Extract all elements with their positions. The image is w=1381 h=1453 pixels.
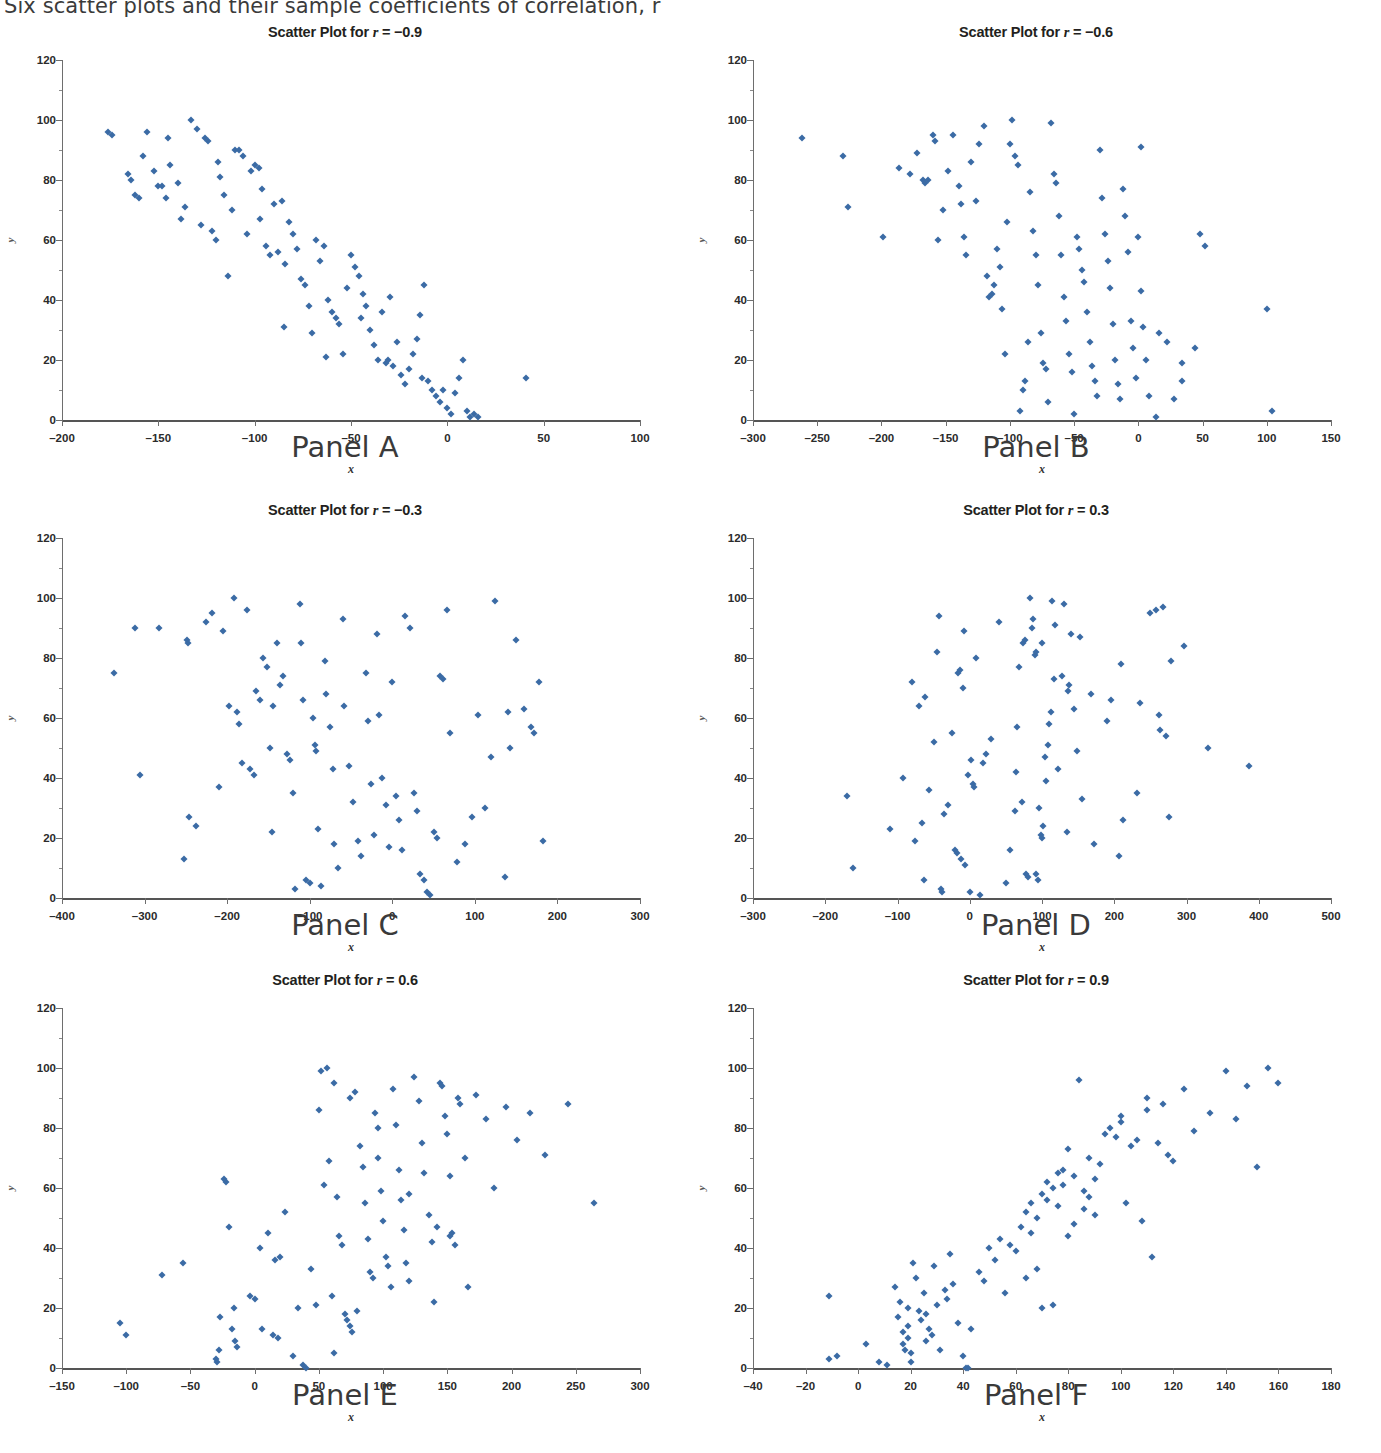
x-tick (640, 898, 641, 904)
data-point (372, 1109, 379, 1116)
data-point (410, 789, 417, 796)
data-point (536, 678, 543, 685)
data-point (403, 1259, 410, 1266)
data-point (1035, 281, 1042, 288)
plot-area: 020406080100120–300–200–1000100200300400… (753, 538, 1331, 898)
data-point (1070, 705, 1077, 712)
y-tick (747, 1008, 753, 1009)
data-point (963, 251, 970, 258)
data-point (250, 771, 257, 778)
data-point (260, 654, 267, 661)
data-point (1122, 212, 1129, 219)
data-point (1002, 1289, 1009, 1296)
x-tick (1068, 1368, 1069, 1374)
data-point (1070, 1220, 1077, 1227)
data-point (270, 702, 277, 709)
data-point (983, 272, 990, 279)
data-point (936, 1346, 943, 1353)
data-point (224, 272, 231, 279)
data-point (1040, 822, 1047, 829)
data-point (326, 723, 333, 730)
data-point (291, 885, 298, 892)
data-point (982, 750, 989, 757)
y-tick-label: 40 (734, 294, 747, 306)
data-point (216, 1313, 223, 1320)
data-point (374, 630, 381, 637)
data-point (1012, 1247, 1019, 1254)
data-point (295, 1304, 302, 1311)
data-point (1053, 179, 1060, 186)
data-point (999, 305, 1006, 312)
data-point (1134, 789, 1141, 796)
data-point (1038, 834, 1045, 841)
data-point (1014, 161, 1021, 168)
data-point (1027, 594, 1034, 601)
data-point (1065, 1232, 1072, 1239)
y-tick-minor (750, 688, 753, 689)
data-point (954, 1319, 961, 1326)
y-tick-minor (750, 1038, 753, 1039)
y-tick-minor (750, 390, 753, 391)
data-point (894, 1313, 901, 1320)
panel-label: Panel A (0, 430, 690, 464)
data-point (1019, 386, 1026, 393)
data-point (338, 1241, 345, 1248)
data-point (986, 1244, 993, 1251)
data-point (904, 1334, 911, 1341)
panel-title: Scatter Plot for r = −0.3 (0, 502, 690, 519)
data-point (981, 1277, 988, 1284)
y-tick (56, 1008, 62, 1009)
y-tick (56, 1128, 62, 1129)
x-tick (544, 420, 545, 426)
data-point (897, 1298, 904, 1305)
data-point (1055, 212, 1062, 219)
data-point (333, 1193, 340, 1200)
data-point (826, 1292, 833, 1299)
data-point (1033, 1265, 1040, 1272)
data-point (215, 1346, 222, 1353)
data-point (1028, 1229, 1035, 1236)
panel-title: Scatter Plot for r = 0.3 (691, 502, 1381, 519)
data-point (849, 864, 856, 871)
y-tick-label: 60 (734, 712, 747, 724)
x-tick (1114, 898, 1115, 904)
data-point (481, 804, 488, 811)
data-point (326, 1157, 333, 1164)
data-point (1059, 672, 1066, 679)
x-tick (1259, 898, 1260, 904)
data-point (399, 846, 406, 853)
data-point (385, 843, 392, 850)
y-tick-minor (750, 330, 753, 331)
y-tick-label: 0 (741, 892, 747, 904)
data-point (971, 783, 978, 790)
data-point (1044, 741, 1051, 748)
x-tick (858, 1368, 859, 1374)
data-point (876, 1358, 883, 1365)
data-point (434, 1223, 441, 1230)
data-point (137, 771, 144, 778)
data-point (1191, 1127, 1198, 1134)
data-point (351, 1088, 358, 1095)
data-point (590, 1199, 597, 1206)
data-point (975, 1268, 982, 1275)
data-point (887, 825, 894, 832)
data-point (1104, 257, 1111, 264)
data-point (264, 1229, 271, 1236)
x-axis-line (62, 898, 640, 900)
data-point (308, 1265, 315, 1272)
data-point (1096, 1160, 1103, 1167)
data-point (1043, 777, 1050, 784)
data-point (1029, 227, 1036, 234)
data-point (433, 834, 440, 841)
x-tick (383, 1368, 384, 1374)
y-tick-minor (59, 1158, 62, 1159)
data-point (919, 819, 926, 826)
y-axis-label: y (695, 716, 707, 721)
y-tick (56, 300, 62, 301)
data-point (504, 708, 511, 715)
data-point (906, 170, 913, 177)
data-point (447, 729, 454, 736)
data-point (950, 131, 957, 138)
y-tick-minor (750, 270, 753, 271)
data-point (931, 1262, 938, 1269)
